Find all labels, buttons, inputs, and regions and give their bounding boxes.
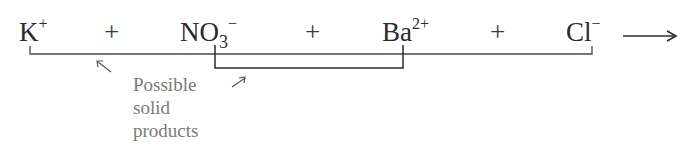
reaction-arrow-icon	[623, 31, 676, 41]
pairing-connectors	[0, 0, 699, 153]
bano3-connector	[215, 45, 403, 68]
label-line: solid	[133, 96, 198, 119]
pointer-left-icon	[97, 61, 111, 72]
pointer-right-icon	[232, 77, 245, 87]
label-line: products	[133, 119, 198, 142]
label-line: Possible	[133, 73, 198, 96]
kcl-connector	[30, 46, 592, 54]
possible-solid-products-label: Possible solid products	[133, 73, 198, 142]
